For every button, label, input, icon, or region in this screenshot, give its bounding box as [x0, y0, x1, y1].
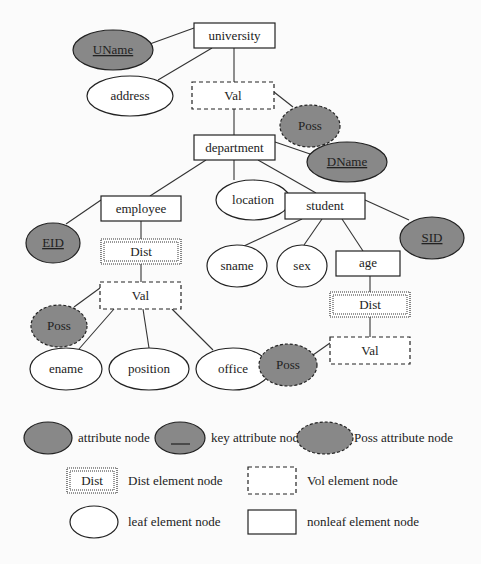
svg-text:Vol element node: Vol element node [307, 473, 398, 488]
svg-text:Poss: Poss [298, 118, 322, 133]
svg-text:Val: Val [224, 88, 242, 103]
edge-student-sid [365, 200, 409, 220]
svg-text:age: age [359, 255, 377, 270]
edge-university-address [158, 48, 212, 80]
svg-text:DName: DName [327, 154, 368, 169]
xml-tree-diagram: university UName address Val Poss depart… [0, 0, 481, 564]
legend-dist-element: Dist Dist element node [67, 468, 223, 493]
edge-student-sex [304, 219, 322, 245]
svg-text:SID: SID [422, 230, 443, 245]
node-location-leaf: location [216, 180, 290, 220]
svg-text:address: address [111, 88, 150, 103]
node-poss-age: Poss [259, 344, 317, 386]
node-val-age: Val [330, 337, 410, 364]
svg-text:department: department [205, 140, 264, 155]
node-sname-leaf: sname [207, 245, 267, 287]
legend-poss-attribute: Poss attribute node [297, 422, 453, 454]
svg-text:Dist: Dist [359, 297, 381, 312]
edge-student-sname [244, 219, 302, 246]
legend-vol-element: Vol element node [248, 467, 398, 494]
node-department: department [194, 135, 275, 160]
svg-text:Dist element node: Dist element node [128, 473, 223, 488]
node-poss-top: Poss [280, 105, 340, 147]
svg-text:Val: Val [132, 288, 150, 303]
legend-key-attribute: key attribute node [155, 422, 305, 454]
svg-text:attribute node: attribute node [78, 430, 150, 445]
edge-val-poss [274, 92, 293, 107]
svg-text:Poss attribute node: Poss attribute node [354, 430, 453, 445]
svg-text:leaf element node: leaf element node [128, 514, 221, 529]
edge-student-age [342, 219, 363, 251]
edge-val-office [172, 309, 213, 350]
svg-text:university: university [209, 28, 261, 43]
legend-attribute: attribute node [24, 422, 150, 454]
svg-text:Dist: Dist [81, 473, 103, 488]
svg-text:ename: ename [49, 361, 83, 376]
svg-text:student: student [306, 198, 344, 213]
svg-text:UName: UName [93, 42, 134, 57]
node-office-leaf: office [196, 348, 270, 390]
node-val-top: Val [192, 82, 274, 109]
legend: attribute node key attribute node Poss a… [24, 422, 453, 538]
node-val-employee: Val [100, 282, 181, 309]
node-poss-employee: Poss [31, 305, 87, 347]
svg-text:employee: employee [116, 201, 167, 216]
node-dname-key-attribute: DName [307, 142, 387, 182]
edge-department-employee [150, 160, 206, 196]
svg-text:sex: sex [293, 258, 311, 273]
svg-text:sname: sname [220, 258, 253, 273]
svg-text:Poss: Poss [47, 318, 71, 333]
svg-text:EID: EID [42, 235, 64, 250]
edge-employee-eid [66, 200, 101, 224]
node-age: age [336, 251, 400, 276]
edge-val-poss-emp [74, 288, 100, 307]
node-sid-key-attribute: SID [400, 217, 464, 259]
node-dist-age: Dist [330, 292, 410, 317]
node-university: university [194, 23, 275, 48]
svg-text:Val: Val [361, 343, 379, 358]
legend-nonleaf-element: nonleaf element node [248, 510, 419, 534]
node-ename-leaf: ename [30, 348, 102, 390]
svg-text:position: position [128, 361, 170, 376]
svg-text:Poss: Poss [276, 357, 300, 372]
node-employee: employee [101, 196, 181, 221]
svg-text:Dist: Dist [130, 244, 152, 259]
node-eid-key-attribute: EID [26, 223, 80, 263]
node-dist-employee: Dist [101, 239, 181, 264]
edge-val-poss-age [313, 343, 330, 355]
edge-university-uname [147, 28, 194, 45]
svg-text:key attribute node: key attribute node [211, 430, 305, 445]
svg-text:office: office [218, 361, 248, 376]
legend-leaf-element: leaf element node [70, 506, 221, 538]
svg-text:nonleaf element node: nonleaf element node [307, 514, 419, 529]
node-student: student [285, 193, 365, 219]
edge-val-position [143, 309, 149, 348]
svg-text:location: location [232, 192, 274, 207]
node-address-leaf: address [87, 76, 173, 116]
node-position-leaf: position [109, 348, 189, 390]
node-sex-leaf: sex [277, 245, 327, 287]
node-uname-key-attribute: UName [73, 30, 153, 70]
